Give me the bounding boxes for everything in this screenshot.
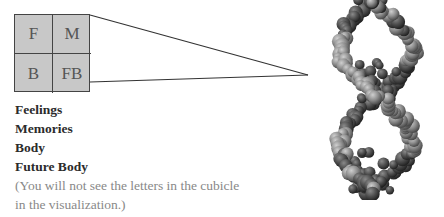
visualization-note: (You will not see the letters in the cub…: [15, 176, 275, 214]
note-line-2: in the visualization.): [15, 195, 275, 214]
legend-item-future-body: Future Body: [15, 157, 88, 176]
legend-item-feelings: Feelings: [15, 100, 88, 119]
cubicle-cell-body: B: [15, 54, 53, 93]
atom-sphere: [386, 186, 394, 194]
cubicle-cell-future-body: FB: [53, 54, 91, 93]
legend-item-body: Body: [15, 138, 88, 157]
atom-sphere: [377, 68, 388, 79]
atom-sphere: [368, 91, 382, 105]
note-line-1: (You will not see the letters in the cub…: [15, 176, 275, 195]
legend-item-memories: Memories: [15, 119, 88, 138]
atom-sphere: [358, 148, 367, 157]
legend-list: Feelings Memories Body Future Body: [15, 100, 88, 176]
cubicle-cell-feelings: F: [15, 15, 53, 54]
cubicle-cell-memories: M: [53, 15, 91, 54]
atom-sphere: [378, 158, 390, 170]
connector-line-bottom: [90, 75, 308, 82]
atom-sphere: [375, 61, 383, 69]
atom-sphere: [348, 185, 357, 194]
atom-sphere: [387, 8, 400, 21]
connector-line-top: [90, 15, 308, 75]
atom-sphere: [392, 67, 401, 76]
cubicle-grid: F M B FB: [14, 14, 90, 92]
dna-atoms: [329, 0, 424, 200]
dna-helix-image: [300, 0, 444, 200]
